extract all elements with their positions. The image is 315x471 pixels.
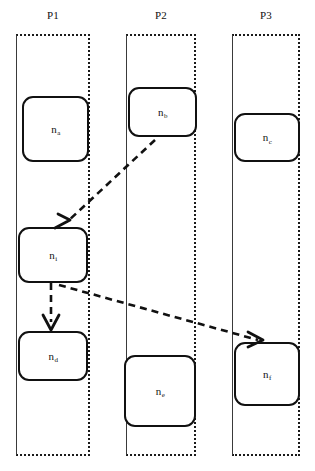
lane-label-p2: P2 bbox=[126, 9, 196, 21]
node-label-ni: ni bbox=[49, 250, 56, 261]
node-ne[interactable]: ne bbox=[124, 355, 196, 427]
node-na[interactable]: na bbox=[22, 96, 89, 162]
node-label-nc: nc bbox=[263, 132, 272, 143]
lane-label-p1: P1 bbox=[16, 9, 90, 21]
lane-label-p3: P3 bbox=[232, 9, 300, 21]
node-label-nb: nb bbox=[158, 107, 167, 118]
diagram-canvas: P1 P2 P3 na nb nc ni nd ne nf bbox=[0, 0, 315, 471]
node-label-ne: ne bbox=[156, 386, 165, 397]
node-nc[interactable]: nc bbox=[234, 113, 300, 162]
node-label-na: na bbox=[51, 124, 60, 135]
node-label-nf: nf bbox=[263, 369, 271, 380]
node-label-nd: nd bbox=[49, 351, 58, 362]
node-nf[interactable]: nf bbox=[234, 342, 300, 406]
node-nb[interactable]: nb bbox=[128, 87, 197, 137]
node-nd[interactable]: nd bbox=[18, 331, 88, 381]
node-ni[interactable]: ni bbox=[18, 227, 88, 283]
